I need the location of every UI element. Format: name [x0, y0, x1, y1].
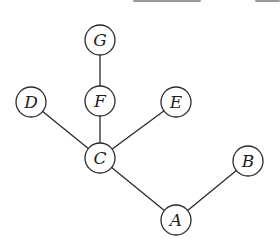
edges [31, 40, 248, 220]
node-label: G [93, 30, 107, 50]
node-label: A [168, 210, 182, 230]
node-label: E [169, 92, 183, 112]
node-b: B [233, 146, 263, 176]
node-e: E [161, 87, 191, 117]
node-label: F [93, 91, 107, 111]
node-g: G [85, 25, 115, 55]
node-label: B [241, 151, 255, 171]
node-label: C [93, 148, 106, 168]
node-d: D [16, 87, 46, 117]
diagram-svg: GDFECBA [0, 0, 280, 243]
tree-diagram: GDFECBA [0, 0, 280, 243]
node-label: D [23, 92, 38, 112]
nodes: GDFECBA [16, 25, 263, 235]
cut-off-header-text [133, 0, 280, 2]
node-f: F [85, 86, 115, 116]
node-a: A [161, 205, 191, 235]
node-c: C [85, 143, 115, 173]
